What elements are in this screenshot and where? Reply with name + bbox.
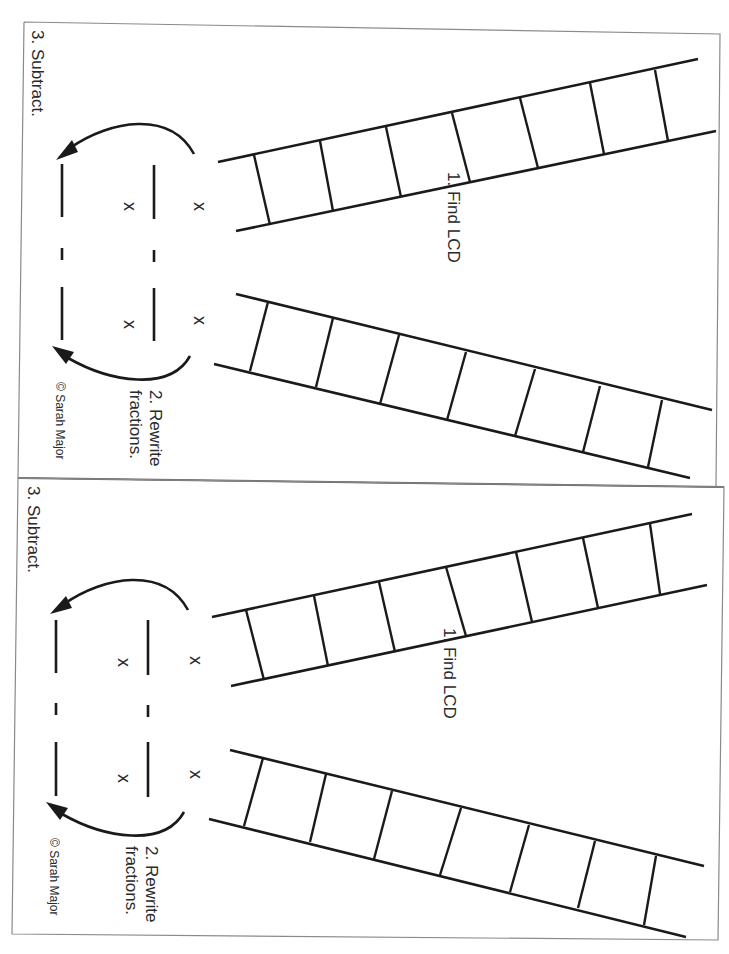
multiply-sign: x [114, 774, 134, 783]
step3-label: 3. Subtract. [24, 486, 43, 573]
arrow-arc-upper-top [70, 124, 194, 154]
multiply-sign: x [120, 202, 140, 211]
step2-label-line1: 2. Rewrite [142, 846, 161, 923]
multiply-sign: x [190, 202, 210, 211]
panel-top: 3. Subtract. 1. Find LCD 2. Rewrite frac… [18, 22, 720, 487]
step1-label: 1. Find LCD [444, 172, 463, 263]
fraction-work-area-bottom [56, 620, 148, 797]
arrow-arc-lower-bottom [62, 812, 184, 836]
multiply-sign: x [186, 770, 206, 779]
ladder-upper-top [218, 59, 716, 231]
ladder-lower-top [214, 294, 712, 478]
panel-bottom-border [12, 478, 724, 940]
arrowhead-icon [52, 346, 74, 364]
copyright-label: © Sarah Major [47, 838, 61, 916]
arrowhead-icon [56, 140, 78, 160]
step2-label-line1: 2. Rewrite [146, 390, 165, 467]
arrowhead-icon [50, 596, 72, 614]
arrow-arc-lower-top [68, 356, 190, 380]
arrowhead-icon [46, 802, 68, 820]
copyright-label: © Sarah Major [53, 382, 67, 460]
step1-label: 1. Find LCD [440, 628, 459, 719]
worksheet-canvas: 3. Subtract. 1. Find LCD 2. Rewrite frac… [0, 0, 729, 954]
multiply-sign: x [114, 658, 134, 667]
multiply-sign: x [186, 656, 206, 665]
ladder-lower-bottom [209, 750, 704, 937]
panel-bottom: 3. Subtract. 1. Find LCD 2. Rewrite frac… [12, 478, 724, 940]
arrow-arc-upper-bottom [64, 580, 188, 610]
multiply-sign: x [120, 320, 140, 329]
panel-top-border [18, 22, 720, 487]
fraction-work-area-top [62, 164, 154, 341]
step3-label: 3. Subtract. [28, 30, 47, 117]
multiply-sign: x [190, 316, 210, 325]
step2-label-line2: fractions. [122, 846, 141, 915]
step2-label-line2: fractions. [126, 390, 145, 459]
